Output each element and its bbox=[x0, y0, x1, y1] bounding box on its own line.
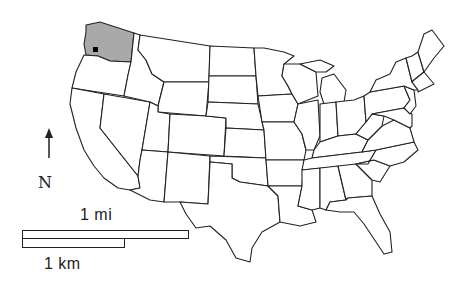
scale-bar-mile bbox=[22, 230, 189, 239]
north-arrow-icon bbox=[45, 128, 53, 158]
scale-km-label: 1 km bbox=[44, 255, 81, 273]
scale-bar-km bbox=[22, 239, 125, 248]
north-label: N bbox=[38, 173, 52, 192]
us-map bbox=[0, 0, 474, 297]
scale-mile-label: 1 mi bbox=[80, 206, 112, 224]
location-marker bbox=[93, 47, 98, 52]
